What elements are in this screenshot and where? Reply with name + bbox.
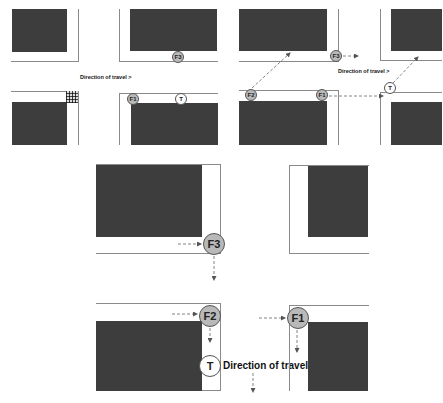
arrow-t-diagonal [393, 57, 418, 83]
arrow-overlay [0, 0, 443, 403]
arrow-f2-diagonal [252, 53, 290, 88]
